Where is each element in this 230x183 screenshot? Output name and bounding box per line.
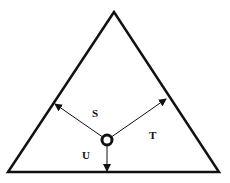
center-point-ring — [102, 135, 112, 145]
label-u: U — [82, 149, 90, 161]
arrow-s — [55, 104, 107, 140]
label-s: S — [92, 107, 98, 119]
label-t: T — [149, 129, 157, 141]
arrow-t — [107, 99, 166, 140]
equilateral-triangle — [8, 12, 219, 172]
triangle-diagram: S T U — [0, 0, 230, 183]
